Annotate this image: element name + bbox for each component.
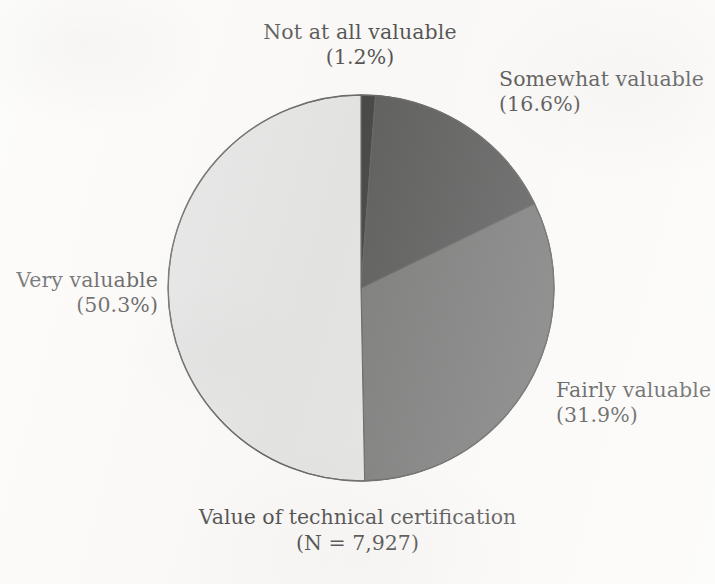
slice-label-percent: (50.3%) bbox=[6, 293, 158, 318]
figure-caption-title: Value of technical certification bbox=[199, 505, 517, 529]
figure-caption: Value of technical certification (N = 7,… bbox=[0, 505, 715, 556]
pie-chart-figure: Not at all valuable (1.2%) Somewhat valu… bbox=[0, 0, 715, 584]
slice-label-text: Somewhat valuable bbox=[499, 67, 704, 91]
slice-label-text: Not at all valuable bbox=[263, 20, 456, 44]
slice-label-somewhat-valuable: Somewhat valuable (16.6%) bbox=[499, 67, 704, 117]
slice-label-percent: (1.2%) bbox=[250, 45, 470, 70]
pie-slice-very-valuable bbox=[168, 95, 364, 481]
slice-label-very-valuable: Very valuable (50.3%) bbox=[6, 268, 158, 318]
slice-label-percent: (16.6%) bbox=[499, 92, 704, 117]
slice-label-text: Fairly valuable bbox=[556, 378, 711, 402]
slice-label-text: Very valuable bbox=[16, 268, 158, 292]
slice-label-not-at-all-valuable: Not at all valuable (1.2%) bbox=[250, 20, 470, 70]
slice-label-percent: (31.9%) bbox=[556, 403, 711, 428]
pie-slice-group bbox=[168, 95, 554, 481]
slice-label-fairly-valuable: Fairly valuable (31.9%) bbox=[556, 378, 711, 428]
figure-caption-sample-size: (N = 7,927) bbox=[0, 531, 715, 557]
